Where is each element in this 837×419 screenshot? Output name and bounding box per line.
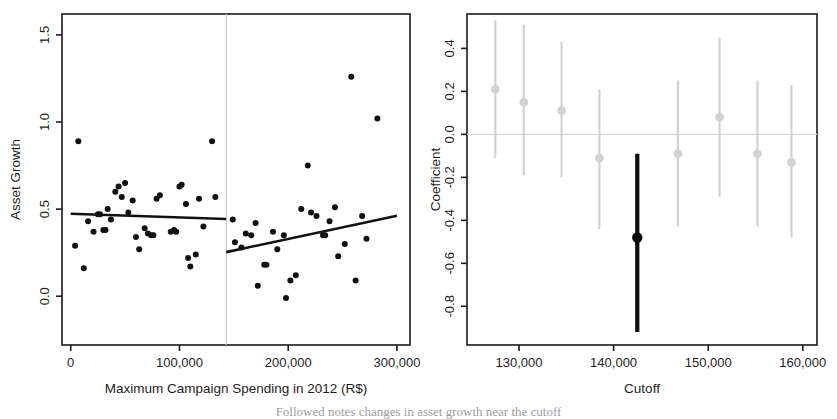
coefficient-point [674,149,683,158]
scatter-point [200,224,206,230]
scatter-point [116,183,122,189]
scatter-point [353,278,359,284]
scatter-point [313,213,319,219]
scatter-point [142,225,148,231]
rd-scatter-svg: 0100,000200,000300,0000.00.51.01.5Maximu… [0,0,420,419]
scatter-point [308,210,314,216]
x-axis-label: Maximum Campaign Spending in 2012 (R$) [105,381,368,396]
scatter-point [335,253,341,259]
coefficient-point [557,106,566,115]
scatter-point [81,265,87,271]
scatter-point [75,138,81,144]
y-tick-label: 0.2 [442,82,457,100]
scatter-point [183,201,189,207]
y-tick-label: -0.4 [442,209,457,231]
coefficient-point [787,158,796,167]
x-tick-label: 200,000 [265,355,312,370]
x-tick-label: 100,000 [156,355,203,370]
scatter-point [348,74,354,80]
scatter-point [281,232,287,238]
y-tick-label: 1.0 [37,113,52,131]
y-tick-label: -0.2 [442,166,457,188]
x-tick-label: 160,000 [779,355,826,370]
scatter-point [112,189,118,195]
scatter-point [263,262,269,268]
x-axis-label: Cutoff [624,381,660,396]
scatter-point [243,231,249,237]
coefficient-point [519,98,528,107]
coefficient-point [753,149,762,158]
scatter-point [72,243,78,249]
scatter-point [130,197,136,203]
coefficient-point [632,232,642,242]
scatter-point [283,295,289,301]
scatter-point [136,246,142,252]
x-tick-label: 0 [67,355,74,370]
scatter-point [212,194,218,200]
sensitivity-panel: 130,000140,000150,000160,0000.40.20.0-0.… [420,0,837,419]
scatter-point [305,163,311,169]
scatter-point [270,229,276,235]
plot-frame [62,14,410,345]
x-tick-label: 300,000 [373,355,420,370]
coefficient-point [595,154,604,163]
coefficient-point [715,113,724,122]
scatter-point [157,192,163,198]
y-tick-label: 0.0 [37,287,52,305]
scatter-point [359,213,365,219]
scatter-point [193,251,199,257]
y-axis-label: Coefficient [428,147,443,211]
scatter-point [122,180,128,186]
scatter-point [253,220,259,226]
y-tick-label: -0.6 [442,252,457,274]
scatter-point [248,232,254,238]
coefficient-point [491,85,500,94]
scatter-point [374,116,380,122]
fit-line-left [71,214,227,219]
scatter-point [209,138,215,144]
x-tick-label: 140,000 [590,355,637,370]
scatter-point [91,229,97,235]
points-group [71,74,397,301]
scatter-point [342,241,348,247]
scatter-point [232,239,238,245]
x-tick-label: 150,000 [685,355,732,370]
scatter-point [133,234,139,240]
scatter-point [255,283,261,289]
scatter-point [332,204,338,210]
estimates-group [491,20,796,332]
y-tick-label: 1.5 [37,26,52,44]
scatter-point [119,194,125,200]
sensitivity-svg: 130,000140,000150,000160,0000.40.20.0-0.… [420,0,837,419]
plot-frame [467,14,817,345]
y-tick-label: 0.0 [442,125,457,143]
scatter-point [85,218,91,224]
scatter-point [298,206,304,212]
scatter-point [230,217,236,223]
scatter-point [293,272,299,278]
scatter-point [274,246,280,252]
scatter-point [105,206,111,212]
scatter-point [185,255,191,261]
scatter-point [327,218,333,224]
scatter-point [196,196,202,202]
scatter-point [173,229,179,235]
rd-scatter-panel: 0100,000200,000300,0000.00.51.01.5Maximu… [0,0,420,419]
y-axis-label: Asset Growth [8,139,23,220]
figure-caption: Followed notes changes in asset growth n… [0,404,837,419]
scatter-point [364,236,370,242]
scatter-point [108,217,114,223]
y-tick-label: 0.4 [442,39,457,57]
scatter-point [322,232,328,238]
scatter-point [179,182,185,188]
scatter-point [187,264,193,270]
scatter-point [150,232,156,238]
y-tick-label: -0.8 [442,295,457,317]
x-tick-label: 130,000 [496,355,543,370]
scatter-point [287,278,293,284]
y-tick-label: 0.5 [37,200,52,218]
scatter-point [103,227,109,233]
